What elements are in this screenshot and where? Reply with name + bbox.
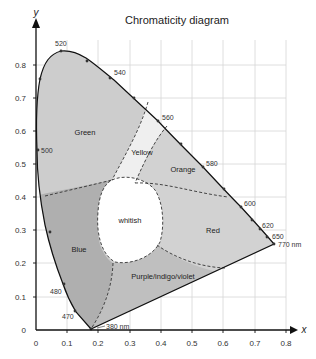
y-axis-arrow-icon: [32, 18, 40, 28]
x-tick-labels: 0 0.1 0.2 0.3 0.4 0.5 0.6 0.7 0.8: [34, 339, 292, 348]
wl-520: 520: [55, 40, 67, 47]
wl-620: 620: [262, 222, 274, 229]
x-tick: 0.3: [124, 339, 136, 348]
x-axis-label: x: [301, 324, 308, 335]
label-yellow: Yellow: [131, 148, 153, 157]
y-tick: 0.2: [15, 259, 27, 268]
wl-500: 500: [41, 147, 53, 154]
y-tick: 0.7: [15, 94, 27, 103]
wl-380: 380 nm: [106, 323, 130, 330]
x-tick: 0.7: [249, 339, 261, 348]
label-green: Green: [75, 128, 96, 137]
y-tick: 0.3: [15, 226, 27, 235]
label-whitish: whitish: [118, 216, 142, 225]
y-tick: 0.8: [15, 61, 27, 70]
wl-480: 480: [50, 288, 62, 295]
y-tick: 0.4: [15, 193, 27, 202]
label-blue: Blue: [71, 245, 86, 254]
x-tick: 0.1: [61, 339, 73, 348]
x-tick: 0.8: [280, 339, 292, 348]
x-axis-arrow-icon: [290, 326, 298, 334]
chromaticity-diagram: Chromaticity diagram y x 0 0.1 0.2 0.3 0…: [0, 0, 316, 359]
y-tick-labels: 0 0.1 0.2 0.3 0.4 0.5 0.6 0.7 0.8: [15, 61, 27, 335]
x-tick: 0: [34, 339, 39, 348]
x-tick: 0.5: [186, 339, 198, 348]
wl-600: 600: [244, 200, 256, 207]
label-orange: Orange: [170, 165, 195, 174]
y-tick: 0: [22, 326, 27, 335]
y-tick: 0.6: [15, 127, 27, 136]
y-tick: 0.5: [15, 160, 27, 169]
label-purple: Purple/indigo/violet: [131, 272, 195, 281]
color-regions: [30, 40, 300, 345]
x-tick: 0.6: [217, 339, 229, 348]
wl-470: 470: [62, 313, 74, 320]
x-tick: 0.4: [155, 339, 167, 348]
label-red: Red: [206, 226, 220, 235]
wl-650: 650: [272, 233, 284, 240]
wl-580: 580: [206, 160, 218, 167]
y-axis-label: y: [33, 7, 40, 18]
x-tick: 0.2: [92, 339, 104, 348]
chart-title: Chromaticity diagram: [125, 14, 229, 26]
wl-560: 560: [162, 114, 174, 121]
y-tick: 0.1: [15, 293, 27, 302]
wl-540: 540: [114, 69, 126, 76]
wl-770: 770 nm: [278, 241, 302, 248]
